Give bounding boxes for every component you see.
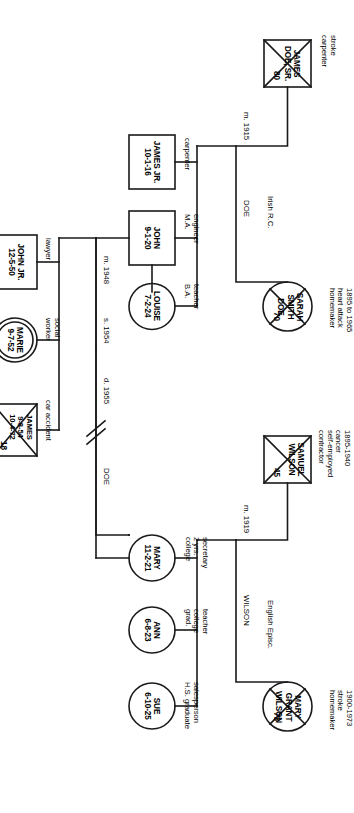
label-union-family: DOE (102, 468, 111, 485)
shape-john (129, 211, 175, 265)
annotation-mary-grant: 1900-1973 stroke homemaker (327, 690, 353, 800)
label-james-grandson-age: 18 (0, 441, 8, 450)
label-doe-ethnicity: Irish R.C. (266, 196, 275, 229)
label-samuel-age: 45 (272, 468, 281, 477)
annotation-sarah: 1895 to 1965 heart attack homemaker (327, 288, 353, 408)
label-union-marriage: m. 1948 (102, 256, 111, 284)
label-wilson-family: WILSON (242, 595, 251, 626)
label-union-divorce: d. 1955 (102, 378, 111, 404)
annotation-samuel: 1895-1940 cancer self-employed contracto… (317, 430, 351, 540)
annotation-james-sr: stroke carpenter (320, 35, 337, 145)
label-doe-marriage: m. 1915 (242, 112, 251, 140)
annotation-john-jr: lawyer (43, 238, 52, 328)
label-doe-family: DOE (242, 200, 251, 217)
shape-sue (129, 683, 175, 729)
label-wilson-marriage: m. 1919 (242, 505, 251, 533)
shape-marie-inner (0, 322, 33, 358)
shape-ann (129, 607, 175, 653)
label-sarah-age: 70 (272, 312, 281, 321)
annotation-sue: salesperson H.S. graduate (183, 682, 200, 792)
shape-james-jr (129, 135, 175, 189)
label-james-sr-age: 80 (272, 71, 281, 80)
label-mary-grant-age: 73 (272, 712, 281, 721)
label-wilson-ethnicity: English Episc. (266, 600, 275, 649)
annotation-james-grandson: car accident (43, 400, 52, 490)
shape-john-jr (0, 235, 37, 289)
annotation-marie: social worker (44, 318, 61, 408)
label-union-separation: s. 1954 (102, 318, 111, 344)
shape-mary (129, 535, 175, 581)
annotation-louise: teacher B.A. (183, 284, 200, 374)
